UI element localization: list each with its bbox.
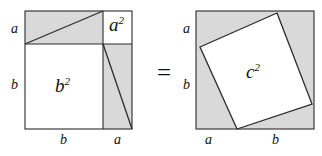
right-label-side-b-bottom: b bbox=[272, 133, 279, 147]
equals-sign: = bbox=[157, 60, 171, 85]
left-label-side-b-bottom: b bbox=[60, 133, 67, 147]
left-label-a-squared: a2 bbox=[109, 15, 124, 34]
left-b-squared-exponent: 2 bbox=[65, 75, 71, 87]
left-a-squared-exponent: 2 bbox=[119, 14, 125, 26]
left-label-side-a-left: a bbox=[11, 22, 18, 36]
right-label-side-a-bottom: a bbox=[205, 133, 212, 147]
left-b-squared-base: b bbox=[55, 75, 65, 96]
right-label-c-squared: c2 bbox=[246, 62, 260, 81]
left-label-b-squared: b2 bbox=[55, 76, 70, 95]
left-label-side-b-left: b bbox=[11, 78, 18, 92]
right-c-squared-exponent: 2 bbox=[254, 61, 260, 73]
left-a-squared-base: a bbox=[109, 14, 119, 35]
pythagorean-figure: a b b a a2 b2 = a b a b c2 bbox=[0, 0, 322, 156]
left-label-side-a-bottom: a bbox=[114, 133, 121, 147]
right-label-side-a-left: a bbox=[183, 22, 190, 36]
right-label-side-b-left: b bbox=[183, 78, 190, 92]
